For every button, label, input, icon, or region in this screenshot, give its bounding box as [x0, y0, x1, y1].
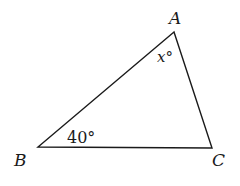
angle-label-b: 40°	[67, 128, 95, 147]
vertex-label-a: A	[167, 8, 181, 28]
angle-label-a: x°	[157, 48, 173, 66]
vertex-label-c: C	[212, 150, 225, 170]
triangle-diagram: A B C x° 40°	[0, 0, 240, 186]
triangle-svg: A B C x° 40°	[0, 0, 240, 186]
vertex-label-b: B	[13, 150, 27, 170]
triangle-abc	[38, 32, 212, 148]
